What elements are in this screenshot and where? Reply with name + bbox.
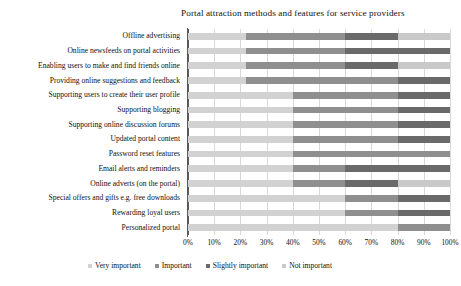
- bar-segment: [188, 62, 246, 69]
- bar-segment: [246, 62, 346, 69]
- bar-segment: [188, 165, 293, 172]
- bar-row: [188, 48, 450, 55]
- bar-row: [188, 165, 450, 172]
- bar-segment: [188, 195, 345, 202]
- bar-segment: [345, 165, 450, 172]
- legend-label: Important: [162, 261, 192, 270]
- legend-label: Slightly important: [213, 261, 268, 270]
- bar-row: [188, 151, 450, 158]
- bar-segment: [398, 77, 450, 84]
- bar-segment: [345, 210, 397, 217]
- bar-row: [188, 121, 450, 128]
- bar-segment: [188, 92, 293, 99]
- bar-segment: [188, 224, 398, 231]
- bar-segment: [293, 151, 450, 158]
- legend-label: Very important: [95, 261, 141, 270]
- bar-segment: [188, 210, 345, 217]
- bar-segment: [188, 151, 293, 158]
- bar-segment: [345, 33, 397, 40]
- bar-row: [188, 107, 450, 114]
- bar-segment: [398, 210, 450, 217]
- bar-segment: [345, 48, 450, 55]
- bar-row: [188, 33, 450, 40]
- bar-segment: [398, 180, 450, 187]
- category-label: Online newsfeeds on portal activities: [67, 47, 180, 55]
- bar-segment: [293, 180, 345, 187]
- bar-segment: [398, 107, 450, 114]
- legend-label: Not important: [289, 261, 332, 270]
- legend-item[interactable]: Slightly important: [206, 261, 268, 270]
- x-tick-label: 90%: [417, 238, 431, 247]
- gridline-100: [450, 29, 451, 235]
- bar-segment: [293, 121, 398, 128]
- bar-segment: [398, 224, 450, 231]
- bar-row: [188, 210, 450, 217]
- bar-segment: [188, 77, 246, 84]
- bar-segment: [188, 180, 293, 187]
- bar-segment: [398, 92, 450, 99]
- bar-segment: [398, 33, 450, 40]
- bar-segment: [398, 136, 450, 143]
- legend-swatch-icon: [88, 264, 92, 268]
- x-tick-label: 40%: [286, 238, 300, 247]
- x-tick-label: 30%: [260, 238, 274, 247]
- category-label: Supporting users to create their user pr…: [48, 91, 180, 99]
- legend-swatch-icon: [206, 264, 210, 268]
- bar-segment: [345, 62, 397, 69]
- bar-segment: [188, 48, 246, 55]
- legend-item[interactable]: Not important: [282, 261, 332, 270]
- bar-segment: [293, 136, 398, 143]
- bar-row: [188, 92, 450, 99]
- x-tick-label: 80%: [391, 238, 405, 247]
- bar-row: [188, 136, 450, 143]
- bar-row: [188, 195, 450, 202]
- bar-row: [188, 180, 450, 187]
- bar-rows: [188, 29, 450, 235]
- category-label: Offline advertising: [123, 32, 180, 40]
- bar-row: [188, 224, 450, 231]
- bar-segment: [188, 107, 293, 114]
- category-label: Enabling users to make and find friends …: [38, 62, 180, 70]
- category-label: Supporting blogging: [117, 106, 180, 114]
- bar-row: [188, 77, 450, 84]
- bar-segment: [398, 195, 450, 202]
- category-label: Updated portal content: [110, 135, 180, 143]
- bar-segment: [293, 165, 345, 172]
- bar-segment: [246, 48, 346, 55]
- category-label: Rewarding loyal users: [112, 209, 180, 217]
- x-tick-label: 0%: [183, 238, 193, 247]
- bar-segment: [293, 107, 398, 114]
- x-tick-label: 50%: [312, 238, 326, 247]
- category-label: Special offers and gifts e.g. free downl…: [49, 194, 180, 202]
- category-label: Providing online suggestions and feedbac…: [50, 77, 180, 85]
- legend-swatch-icon: [282, 264, 286, 268]
- category-label: Personalized portal: [122, 224, 180, 232]
- plot-area: [188, 29, 450, 235]
- bar-segment: [398, 121, 450, 128]
- bar-segment: [398, 62, 450, 69]
- x-tick-label: 100%: [441, 238, 458, 247]
- chart-legend: Very importantImportantSlightly importan…: [88, 261, 332, 270]
- bar-segment: [345, 180, 397, 187]
- bar-segment: [293, 92, 398, 99]
- bar-segment: [246, 33, 346, 40]
- bar-segment: [188, 121, 293, 128]
- category-axis-labels: Offline advertisingOnline newsfeeds on p…: [0, 29, 184, 235]
- legend-swatch-icon: [155, 264, 159, 268]
- bar-segment: [188, 136, 293, 143]
- category-label: Online adverts (on the portal): [90, 180, 180, 188]
- bar-segment: [246, 77, 398, 84]
- x-tick-label: 10%: [207, 238, 221, 247]
- chart-title: Portal attraction methods and features f…: [181, 8, 461, 18]
- bar-row: [188, 62, 450, 69]
- category-label: Email alerts and reminders: [98, 165, 180, 173]
- legend-item[interactable]: Important: [155, 261, 192, 270]
- x-tick-label: 70%: [365, 238, 379, 247]
- chart-container: Portal attraction methods and features f…: [0, 0, 461, 286]
- bar-segment: [188, 33, 246, 40]
- x-axis-labels: 0%10%20%30%40%50%60%70%80%90%100%: [188, 238, 450, 250]
- category-label: Supporting online discussion forums: [68, 121, 180, 129]
- legend-item[interactable]: Very important: [88, 261, 141, 270]
- category-label: Password reset features: [109, 150, 180, 158]
- bar-segment: [345, 195, 397, 202]
